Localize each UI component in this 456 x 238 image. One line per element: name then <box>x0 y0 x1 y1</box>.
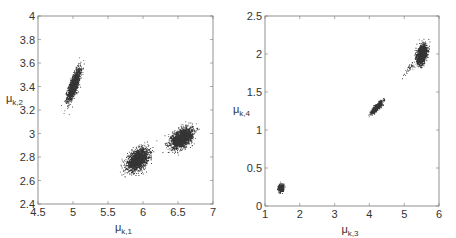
x-tick-label: 5 <box>70 206 76 218</box>
y-tick-label: 3.8 <box>20 34 35 46</box>
scatter-panel-right: 12345600.511.522.5μk,3μk,4 <box>228 0 456 238</box>
point-cluster-cluster-1 <box>277 182 285 194</box>
y-tick-label: 0.5 <box>247 162 262 174</box>
x-axis-label: μk,1 <box>115 221 133 236</box>
x-axis-ticks: 123456 <box>262 16 442 220</box>
scatter-panel-left: 4.555.566.572.42.62.833.23.43.63.84μk,1μ… <box>0 0 228 238</box>
point-cluster-cluster-1 <box>61 57 85 115</box>
y-tick-label: 1.5 <box>247 86 262 98</box>
data-points <box>61 57 200 177</box>
y-tick-label: 2.8 <box>20 151 35 163</box>
x-tick-label: 1 <box>262 208 268 220</box>
x-tick-label: 5.5 <box>100 206 115 218</box>
y-tick-label: 2.6 <box>20 175 35 187</box>
y-tick-label: 4 <box>29 10 35 22</box>
y-tick-label: 3.6 <box>20 57 35 69</box>
x-tick-label: 3 <box>332 208 338 220</box>
x-axis-ticks: 4.555.566.57 <box>30 16 216 218</box>
x-tick-label: 7 <box>210 206 216 218</box>
data-points <box>277 39 430 194</box>
y-tick-label: 3 <box>29 128 35 140</box>
axes-box <box>265 16 439 206</box>
y-axis-ticks: 2.42.62.833.23.43.63.84 <box>20 10 213 210</box>
x-tick-label: 4 <box>366 208 372 220</box>
scatter-plot-mu-k1-vs-mu-k2: 4.555.566.572.42.62.833.23.43.63.84μk,1μ… <box>0 0 228 238</box>
point-cluster-cluster-3 <box>163 121 200 155</box>
y-tick-label: 2.5 <box>247 10 262 22</box>
x-tick-label: 5 <box>401 208 407 220</box>
x-tick-label: 6 <box>436 208 442 220</box>
y-tick-label: 3.4 <box>20 81 35 93</box>
x-tick-label: 6 <box>140 206 146 218</box>
y-axis-ticks: 00.511.522.5 <box>247 10 439 212</box>
y-axis-label: μk,2 <box>6 92 24 107</box>
x-axis-label: μk,3 <box>341 223 359 238</box>
point-cluster-cluster-3 <box>414 39 431 69</box>
point-cluster-cluster-2 <box>368 98 385 117</box>
point-cluster-cluster-2 <box>120 140 157 177</box>
scatter-plot-mu-k3-vs-mu-k4: 12345600.511.522.5μk,3μk,4 <box>228 0 456 238</box>
y-tick-label: 2 <box>256 48 262 60</box>
y-tick-label: 0 <box>256 200 262 212</box>
axes-box <box>38 16 213 204</box>
y-tick-label: 1 <box>256 124 262 136</box>
x-tick-label: 2 <box>297 208 303 220</box>
x-tick-label: 6.5 <box>170 206 185 218</box>
y-tick-label: 2.4 <box>20 198 35 210</box>
y-axis-label: μk,4 <box>233 103 251 118</box>
point-cluster-tail <box>402 57 417 80</box>
